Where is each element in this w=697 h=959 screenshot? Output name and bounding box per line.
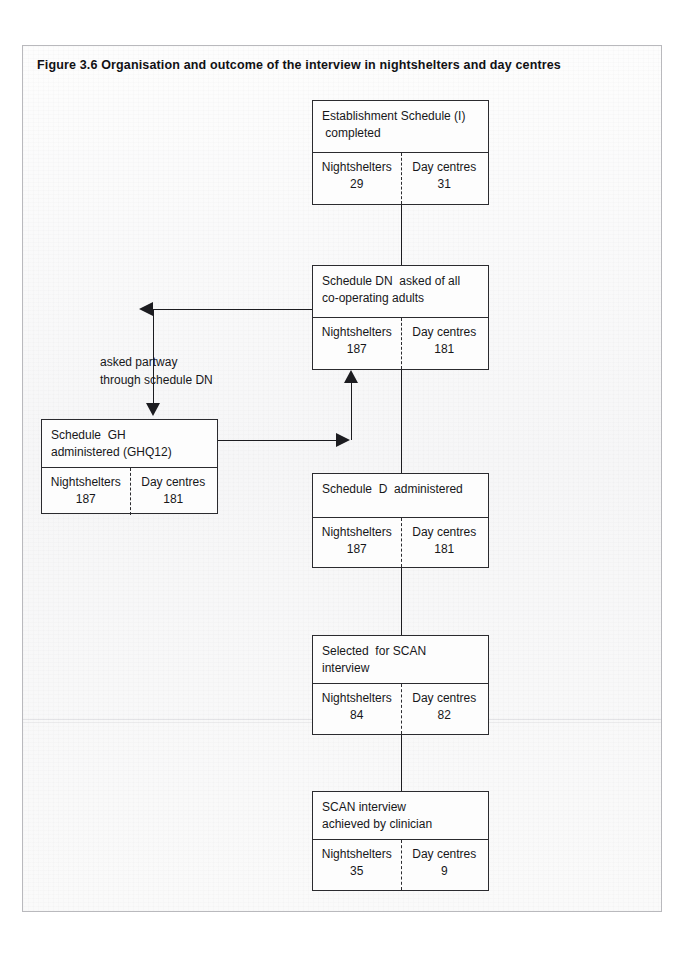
node-header-line-1: Establishment Schedule (I) [322, 108, 479, 125]
stat-nightshelters: Nightshelters 35 [313, 840, 401, 890]
stat-nightshelters: Nightshelters 187 [42, 468, 130, 515]
stat-nightshelters: Nightshelters 187 [313, 318, 401, 369]
connector-establishment-to-dn [401, 205, 402, 265]
node-header-line-1: Schedule D administered [322, 481, 479, 498]
node-header: Schedule DN asked of all co-operating ad… [313, 266, 488, 318]
stat-label: Day centres [405, 324, 485, 341]
connector-gh-to-dn-vertical [351, 383, 352, 440]
stat-day-centres: Day centres 181 [130, 468, 218, 515]
node-header: SCAN interview achieved by clinician [313, 792, 488, 840]
node-header: Schedule D administered [313, 474, 488, 518]
node-header-line-2: achieved by clinician [322, 816, 479, 833]
stat-label: Nightshelters [317, 324, 397, 341]
stat-label: Day centres [405, 690, 485, 707]
connector-schedule-d-to-selected [401, 568, 402, 635]
connector-dn-to-gh-horizontal [153, 309, 312, 310]
stat-label: Day centres [134, 474, 214, 491]
stat-value: 35 [317, 863, 397, 880]
node-header-line-2: co-operating adults [322, 290, 479, 307]
node-header: Schedule GH administered (GHQ12) [42, 420, 217, 468]
stat-label: Day centres [405, 524, 485, 541]
node-header-line-1: Schedule GH [51, 427, 208, 444]
connector-selected-to-scan-achieved [401, 735, 402, 791]
stat-value: 187 [46, 491, 126, 508]
branch-annotation-line-1: asked partway [100, 355, 177, 369]
node-header-line-1: Schedule DN asked of all [322, 273, 479, 290]
stat-value: 84 [317, 707, 397, 724]
node-header-line-1: SCAN interview [322, 799, 479, 816]
stat-label: Nightshelters [317, 159, 397, 176]
stat-day-centres: Day centres 82 [401, 684, 489, 734]
stat-nightshelters: Nightshelters 84 [313, 684, 401, 734]
node-stats: Nightshelters 29 Day centres 31 [313, 153, 488, 204]
stat-label: Nightshelters [317, 846, 397, 863]
stat-label: Day centres [405, 846, 485, 863]
connector-dn-to-schedule-d [401, 370, 402, 473]
node-header-line-2: completed [322, 125, 479, 142]
node-establishment-schedule: Establishment Schedule (I) completed Nig… [312, 100, 489, 205]
node-schedule-gh: Schedule GH administered (GHQ12) Nightsh… [41, 419, 218, 514]
stat-value: 31 [405, 176, 485, 193]
node-header: Establishment Schedule (I) completed [313, 101, 488, 153]
node-stats: Nightshelters 187 Day centres 181 [313, 518, 488, 567]
arrowhead-up [344, 370, 358, 383]
node-stats: Nightshelters 187 Day centres 181 [313, 318, 488, 369]
arrowhead-right [336, 433, 350, 447]
node-header: Selected for SCAN interview [313, 636, 488, 684]
page-canvas: Figure 3.6 Organisation and outcome of t… [0, 0, 697, 959]
node-schedule-dn: Schedule DN asked of all co-operating ad… [312, 265, 489, 370]
branch-annotation-line-2: through schedule DN [100, 373, 213, 387]
stat-value: 181 [134, 491, 214, 508]
node-scan-achieved: SCAN interview achieved by clinician Nig… [312, 791, 489, 891]
stat-value: 181 [405, 541, 485, 558]
connector-gh-to-dn-horizontal [218, 440, 337, 441]
node-header-line-1: Selected for SCAN [322, 643, 479, 660]
stat-value: 29 [317, 176, 397, 193]
stat-value: 187 [317, 341, 397, 358]
stat-label: Nightshelters [317, 690, 397, 707]
stat-day-centres: Day centres 9 [401, 840, 489, 890]
stat-label: Nightshelters [46, 474, 126, 491]
stat-label: Nightshelters [317, 524, 397, 541]
arrowhead-left [139, 302, 153, 316]
stat-nightshelters: Nightshelters 187 [313, 518, 401, 567]
figure-title: Figure 3.6 Organisation and outcome of t… [37, 58, 561, 72]
figure-frame: Figure 3.6 Organisation and outcome of t… [22, 45, 662, 912]
node-header-line-2: interview [322, 660, 479, 677]
node-selected-for-scan: Selected for SCAN interview Nightshelter… [312, 635, 489, 735]
node-stats: Nightshelters 84 Day centres 82 [313, 684, 488, 734]
stat-day-centres: Day centres 31 [401, 153, 489, 204]
stat-day-centres: Day centres 181 [401, 318, 489, 369]
node-stats: Nightshelters 187 Day centres 181 [42, 468, 217, 515]
stat-value: 187 [317, 541, 397, 558]
stat-day-centres: Day centres 181 [401, 518, 489, 567]
node-header-line-2: administered (GHQ12) [51, 444, 208, 461]
stat-value: 82 [405, 707, 485, 724]
node-schedule-d: Schedule D administered Nightshelters 18… [312, 473, 489, 568]
stat-label: Day centres [405, 159, 485, 176]
branch-annotation: asked partway through schedule DN [80, 335, 213, 407]
stat-value: 181 [405, 341, 485, 358]
stat-nightshelters: Nightshelters 29 [313, 153, 401, 204]
node-stats: Nightshelters 35 Day centres 9 [313, 840, 488, 890]
stat-value: 9 [405, 863, 485, 880]
